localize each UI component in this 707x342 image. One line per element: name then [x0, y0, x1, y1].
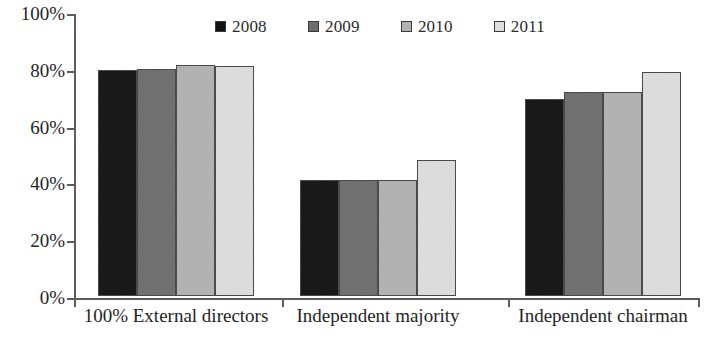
bar	[339, 180, 378, 296]
y-axis-tick-mark	[67, 184, 75, 186]
bar	[98, 70, 137, 296]
plot-area: 100%80%60%40%20%0%	[74, 14, 698, 298]
bar-group	[300, 12, 456, 296]
x-axis-category-label: Independent majority	[268, 305, 488, 327]
y-axis-tick-mark	[67, 241, 75, 243]
y-axis-line	[74, 14, 76, 299]
bar	[603, 92, 642, 296]
bar	[564, 92, 603, 296]
bar-chart: 2008 2009 2010 2011 100%80%60%40%20%0% 1…	[0, 0, 707, 342]
bar-group	[98, 12, 254, 296]
y-axis-tick-label: 20%	[30, 231, 65, 250]
bar	[300, 180, 339, 296]
y-axis-tick-mark	[67, 71, 75, 73]
bar	[642, 72, 681, 296]
bar	[137, 69, 176, 296]
y-axis-tick-label: 0%	[40, 288, 65, 307]
bar	[215, 66, 254, 296]
x-axis-category-label: Independent chairman	[493, 305, 707, 327]
y-axis-tick-mark	[67, 14, 75, 16]
y-axis-tick-label: 100%	[21, 4, 65, 23]
y-axis-tick-label: 60%	[30, 118, 65, 137]
x-axis-line	[74, 298, 698, 300]
bar-group	[525, 12, 681, 296]
y-axis-tick-mark	[67, 128, 75, 130]
bar	[176, 65, 215, 296]
bar	[378, 180, 417, 296]
bar	[525, 99, 564, 296]
x-axis-category-label: 100% External directors	[66, 305, 286, 327]
y-axis-tick-label: 40%	[30, 175, 65, 194]
bar	[417, 160, 456, 296]
y-axis-tick-label: 80%	[30, 61, 65, 80]
